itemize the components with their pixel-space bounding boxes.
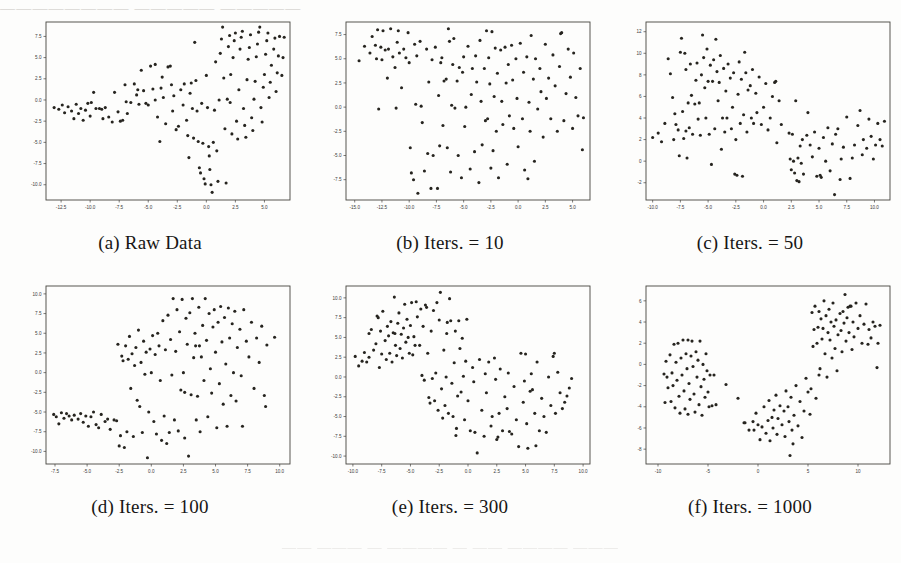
data-point	[175, 308, 178, 311]
data-point	[145, 351, 148, 354]
y-tick-label: -8	[637, 447, 642, 452]
data-point	[668, 353, 671, 356]
data-point	[256, 42, 259, 45]
data-point	[201, 142, 204, 145]
data-point	[774, 80, 777, 83]
data-point	[794, 99, 797, 102]
data-point	[257, 31, 260, 34]
data-point	[70, 418, 73, 421]
data-point	[862, 138, 865, 141]
data-point	[818, 367, 821, 370]
data-point	[432, 309, 435, 312]
data-point	[826, 126, 829, 129]
data-point	[506, 163, 509, 166]
data-point	[283, 36, 286, 39]
data-point	[741, 175, 744, 178]
plot-frame	[46, 22, 290, 200]
data-point	[221, 26, 224, 29]
data-point	[404, 341, 407, 344]
data-point	[791, 442, 794, 445]
data-point	[707, 80, 710, 83]
data-point	[847, 331, 850, 334]
data-point	[533, 160, 536, 163]
data-point	[495, 130, 498, 133]
data-point	[154, 98, 157, 101]
x-tick-label: 0	[757, 469, 760, 474]
data-point	[554, 412, 557, 415]
data-point	[699, 385, 702, 388]
data-point	[423, 379, 426, 382]
data-point	[709, 64, 712, 67]
x-tick-label: 10.0	[579, 469, 588, 474]
data-point	[768, 439, 771, 442]
data-point	[549, 404, 552, 407]
data-point	[260, 325, 263, 328]
data-point	[559, 32, 562, 35]
data-point	[542, 136, 545, 139]
data-point	[476, 451, 479, 454]
data-point	[205, 74, 208, 77]
data-point	[684, 352, 687, 355]
data-point	[708, 133, 711, 136]
data-point	[849, 305, 852, 308]
data-point	[67, 105, 70, 108]
data-point	[682, 389, 685, 392]
data-point	[183, 436, 186, 439]
data-point	[396, 41, 399, 44]
data-point	[233, 39, 236, 42]
data-point	[714, 38, 717, 41]
data-point	[157, 344, 160, 347]
data-point	[133, 364, 136, 367]
data-point	[497, 176, 500, 179]
data-point	[238, 48, 241, 51]
data-point	[694, 79, 697, 82]
y-tick-label: 0.0	[35, 98, 42, 103]
data-point	[185, 119, 188, 122]
data-point	[752, 122, 755, 125]
data-point	[685, 156, 688, 159]
data-point	[683, 52, 686, 55]
data-point	[258, 26, 261, 29]
data-point	[538, 67, 541, 70]
data-point	[430, 330, 433, 333]
data-point	[507, 63, 510, 66]
data-point	[148, 347, 151, 350]
data-point	[827, 308, 830, 311]
data-point	[259, 106, 262, 109]
data-point	[810, 311, 813, 314]
data-point	[473, 431, 476, 434]
data-point	[456, 394, 459, 397]
data-point	[565, 394, 568, 397]
data-point	[407, 336, 410, 339]
y-tick-label: 2.5	[35, 76, 42, 81]
data-point	[700, 73, 703, 76]
data-point	[817, 373, 820, 376]
data-point	[57, 108, 60, 111]
data-point	[440, 387, 443, 390]
data-point	[712, 373, 715, 376]
data-point	[824, 314, 827, 317]
data-point	[507, 371, 510, 374]
data-point	[278, 35, 281, 38]
data-point	[469, 167, 472, 170]
data-point	[226, 98, 229, 101]
data-point	[651, 136, 654, 139]
data-point	[494, 47, 497, 50]
data-point	[568, 387, 571, 390]
data-point	[233, 310, 236, 313]
data-point	[487, 360, 490, 363]
data-point	[823, 352, 826, 355]
data-point	[710, 404, 713, 407]
data-point	[873, 325, 876, 328]
data-point	[400, 86, 403, 89]
data-point	[526, 177, 529, 180]
data-point	[542, 415, 545, 418]
y-tick-label: 7.5	[35, 34, 42, 39]
data-point	[458, 66, 461, 69]
x-tick-label: 2.5	[232, 205, 239, 210]
data-point	[720, 148, 723, 151]
data-point	[205, 339, 208, 342]
x-tick-label: 10.0	[870, 205, 879, 210]
y-tick-label: -7.5	[34, 429, 42, 434]
data-point	[213, 109, 216, 112]
